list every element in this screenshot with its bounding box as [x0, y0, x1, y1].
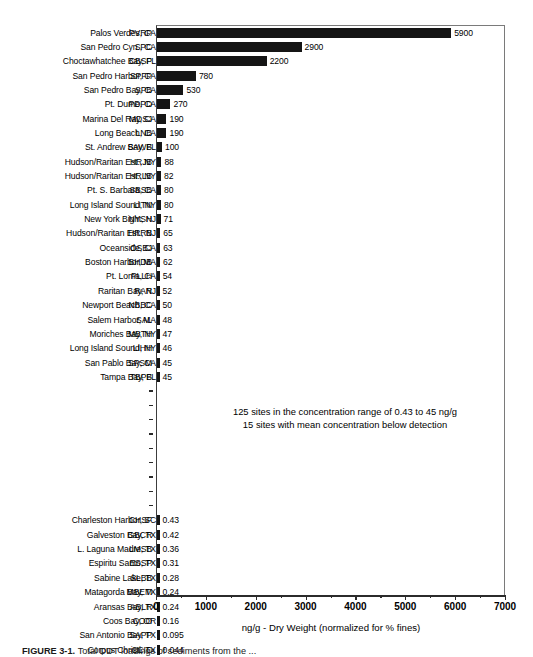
bar [157, 99, 170, 109]
chart-row: Hudson/Raritan Est., NYHRJB88 [0, 155, 533, 169]
axis-break-dash [149, 419, 153, 420]
chart-row: Long Island Sound, NYLIHH46 [0, 341, 533, 355]
site-code-label: SAPP [108, 628, 152, 642]
site-code-label: MBEM [108, 585, 152, 599]
bar [157, 228, 160, 238]
chart-row: Tampa Bay, FLTBPB45 [0, 370, 533, 384]
bar-value-label: 5900 [454, 26, 473, 40]
chart-row: Marina Del Ray, CAMDSJ190 [0, 112, 533, 126]
axis-break-dash [149, 491, 153, 492]
bar [157, 329, 160, 339]
axis-break-row [0, 485, 533, 499]
x-tick-major [455, 595, 456, 600]
axis-break-dash [149, 405, 153, 406]
chart-row: Moriches Bay, NYMBTH47 [0, 327, 533, 341]
bar-value-label: 80 [164, 198, 173, 212]
chart-row: San Pablo Bay, CASPSM45 [0, 356, 533, 370]
site-code-label: SPSM [108, 356, 152, 370]
bar [157, 544, 160, 554]
x-tick-major [256, 595, 257, 600]
bar [157, 372, 160, 382]
bar [157, 42, 302, 52]
site-code-label: ESSP [108, 556, 152, 570]
site-code-label: HRJB [108, 155, 152, 169]
bar-value-label: 0.42 [163, 528, 179, 542]
axis-break-dash [149, 462, 153, 463]
bar [157, 114, 166, 124]
site-code-label: NBBC [108, 298, 152, 312]
bar [157, 530, 160, 540]
axis-break-row [0, 470, 533, 484]
site-code-label: HRLB [108, 169, 152, 183]
bar-value-label: 0.31 [163, 556, 179, 570]
chart-row: Pt. Dume, CAPDPD270 [0, 97, 533, 111]
axis-break-dash [149, 476, 153, 477]
chart-row: Salem Harbor, MASAL48 [0, 313, 533, 327]
site-code-label: CBSP [108, 54, 152, 68]
site-code-label: BHDB [108, 255, 152, 269]
x-tick-minor [480, 595, 481, 598]
bar [157, 286, 160, 296]
axis-break-row [0, 499, 533, 513]
chart-row: Galveston Bay, TXGBCR0.42 [0, 528, 533, 542]
site-code-label: COO [108, 614, 152, 628]
chart-row: Palos Verdes, CAPVRP5900 [0, 26, 533, 40]
chart-row: San Pedro Cyn., CASPC2900 [0, 40, 533, 54]
bar-value-label: 2900 [305, 40, 324, 54]
bar [157, 56, 267, 66]
bar [157, 142, 162, 152]
x-tick-minor [181, 595, 182, 598]
x-tick-major [405, 595, 406, 600]
chart-row: Pt. Loma, CAPLLH54 [0, 269, 533, 283]
bar-value-label: 0.43 [163, 513, 179, 527]
site-code-label: LITN [108, 198, 152, 212]
site-code-label: LMSB [108, 542, 152, 556]
bar-value-label: 65 [163, 226, 172, 240]
x-tick-major [355, 595, 356, 600]
axis-break-dash [149, 390, 153, 391]
annotation-line-1: 125 sites in the concentration range of … [185, 406, 505, 419]
chart-row: Long Beach, CALNB190 [0, 126, 533, 140]
figure-container: Palos Verdes, CAPVRP5900San Pedro Cyn., … [0, 0, 533, 657]
x-tick-minor [430, 595, 431, 598]
bar [157, 243, 160, 253]
chart-row: Long Island Sound, NYLITN80 [0, 198, 533, 212]
axis-break-row [0, 456, 533, 470]
site-code-label: PDPD [108, 97, 152, 111]
bar-value-label: 50 [163, 298, 172, 312]
site-code-label: OSBJ [108, 241, 152, 255]
axis-break-row [0, 442, 533, 456]
chart-row: L. Laguna Madre, TXLMSB0.36 [0, 542, 533, 556]
site-code-label: SBSB [108, 183, 152, 197]
site-code-label: SLBB [108, 571, 152, 585]
x-tick-minor [331, 595, 332, 598]
chart-row: Newport Beach, CANBBC50 [0, 298, 533, 312]
chart-row: San Pedro Bay, CASPB530 [0, 83, 533, 97]
chart-row: Espiritu Santo, TXESSP0.31 [0, 556, 533, 570]
bar-value-label: 2200 [270, 54, 289, 68]
axis-break-dash [149, 505, 153, 506]
bar-value-label: 0.36 [163, 542, 179, 556]
site-code-label: PVRP [108, 26, 152, 40]
bar-value-label: 71 [164, 212, 173, 226]
site-code-label: HRRB [108, 226, 152, 240]
chart-row: St. Andrew Bay, FLSAWB100 [0, 140, 533, 154]
site-code-label: MBTH [108, 327, 152, 341]
site-code-label: SAWB [108, 140, 152, 154]
site-code-label: MDSJ [108, 112, 152, 126]
chart-row: Matagorda Bay, TXMBEM0.24 [0, 585, 533, 599]
bar-value-label: 0.24 [163, 585, 179, 599]
chart-row: Boston Harbor, MABHDB62 [0, 255, 533, 269]
figure-caption: FIGURE 3-1. Total DDT loadings of sedime… [22, 646, 522, 657]
bar-value-label: 88 [164, 155, 173, 169]
chart-row: Oceanside, CAOSBJ63 [0, 241, 533, 255]
bar-value-label: 270 [173, 97, 187, 111]
caption-text: Total DDT loadings of sediments from the… [78, 646, 257, 656]
x-tick-minor [281, 595, 282, 598]
x-tick-major [156, 595, 157, 600]
caption-label: FIGURE 3-1. [22, 646, 75, 656]
site-code-label: SPB [108, 83, 152, 97]
x-tick-major [206, 595, 207, 600]
bar-value-label: 54 [163, 269, 172, 283]
chart-row: Hudson/Raritan Est., NYHRLB82 [0, 169, 533, 183]
